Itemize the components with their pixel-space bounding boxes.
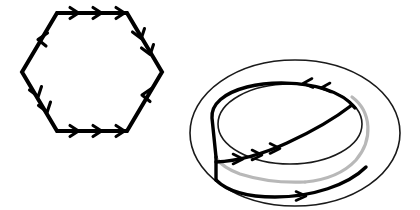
diagram-svg: Hexagon with directed edge identificatio… (0, 0, 420, 210)
torus-with-curve (190, 60, 400, 206)
figure-canvas: Hexagon with directed edge identificatio… (0, 0, 420, 210)
hexagon-outline (22, 13, 162, 131)
curve-visible-segments (212, 83, 366, 197)
curve-lower-sweep (216, 105, 352, 162)
directed-hexagon (22, 8, 162, 137)
curve-hidden-right-arc (305, 97, 368, 182)
